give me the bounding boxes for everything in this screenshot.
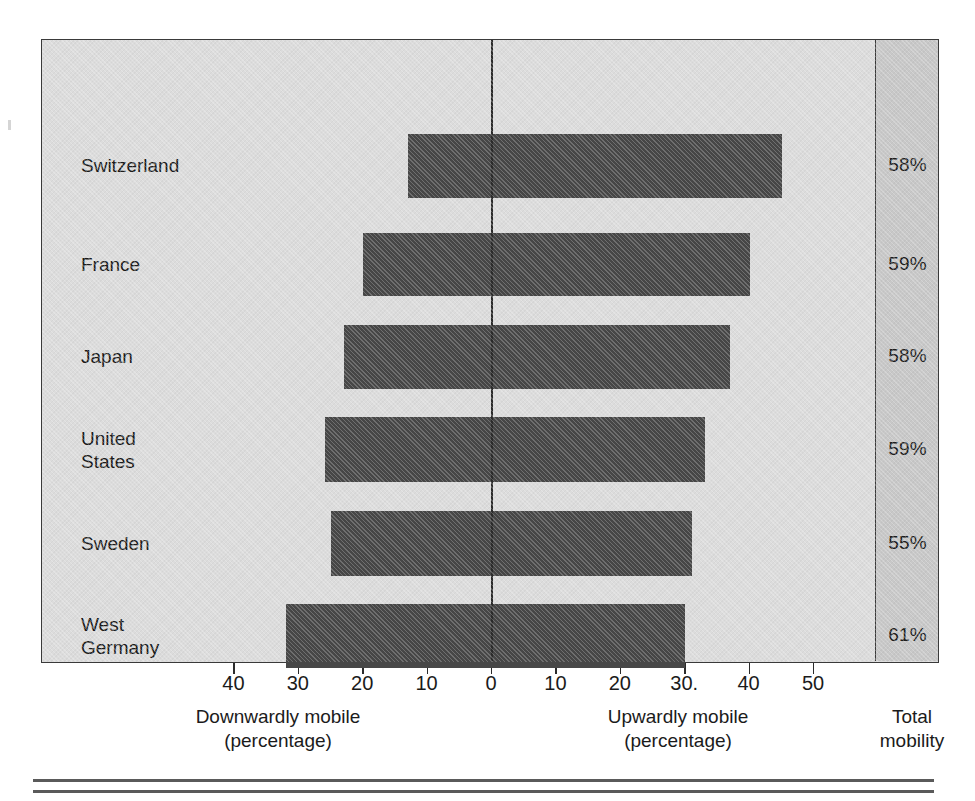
axis-caption-downward: Downwardly mobile (percentage): [128, 705, 428, 753]
category-label-switzerland: Switzerland: [81, 154, 179, 177]
zero-axis-line: [491, 40, 493, 661]
x-tick-label-0: 40: [222, 672, 244, 695]
bar-sweden: [331, 511, 692, 576]
total-mobility-value-france: 59%: [876, 253, 939, 275]
x-axis-tick-labels: 403020100102030.4050: [0, 672, 975, 698]
bar-united-states: [325, 417, 705, 482]
x-tick-label-5: 10: [544, 672, 566, 695]
category-label-japan: Japan: [81, 345, 133, 368]
footer-rule-top: [33, 779, 934, 782]
bar-west-germany: [286, 604, 685, 668]
bar-switzerland: [408, 134, 782, 198]
mobility-chart-figure: SwitzerlandFranceJapanUnited StatesSwede…: [0, 0, 975, 801]
x-tick-label-9: 50: [802, 672, 824, 695]
axis-caption-total: Total mobility: [862, 705, 962, 753]
bar-japan: [344, 325, 730, 389]
x-tick-label-3: 10: [415, 672, 437, 695]
category-label-west-germany: West Germany: [81, 613, 159, 659]
footer-rule-bottom: [33, 790, 934, 793]
x-tick-label-1: 30: [287, 672, 309, 695]
scan-artifact: [8, 120, 11, 130]
total-mobility-value-switzerland: 58%: [876, 154, 939, 176]
x-tick-label-6: 20: [609, 672, 631, 695]
total-mobility-panel: 58%59%58%59%55%61%: [875, 40, 938, 661]
category-label-france: France: [81, 253, 140, 276]
bar-france: [363, 233, 749, 296]
x-tick-label-7: 30.: [670, 672, 698, 695]
total-mobility-value-united-states: 59%: [876, 438, 939, 460]
x-tick-label-4: 0: [485, 672, 496, 695]
x-tick-label-2: 20: [351, 672, 373, 695]
plot-area: SwitzerlandFranceJapanUnited StatesSwede…: [41, 39, 939, 663]
total-mobility-value-sweden: 55%: [876, 532, 939, 554]
total-mobility-value-west-germany: 61%: [876, 624, 939, 646]
x-tick-label-8: 40: [737, 672, 759, 695]
category-label-united-states: United States: [81, 427, 136, 473]
total-mobility-value-japan: 58%: [876, 345, 939, 367]
axis-caption-upward: Upwardly mobile (percentage): [548, 705, 808, 753]
category-label-sweden: Sweden: [81, 532, 150, 555]
